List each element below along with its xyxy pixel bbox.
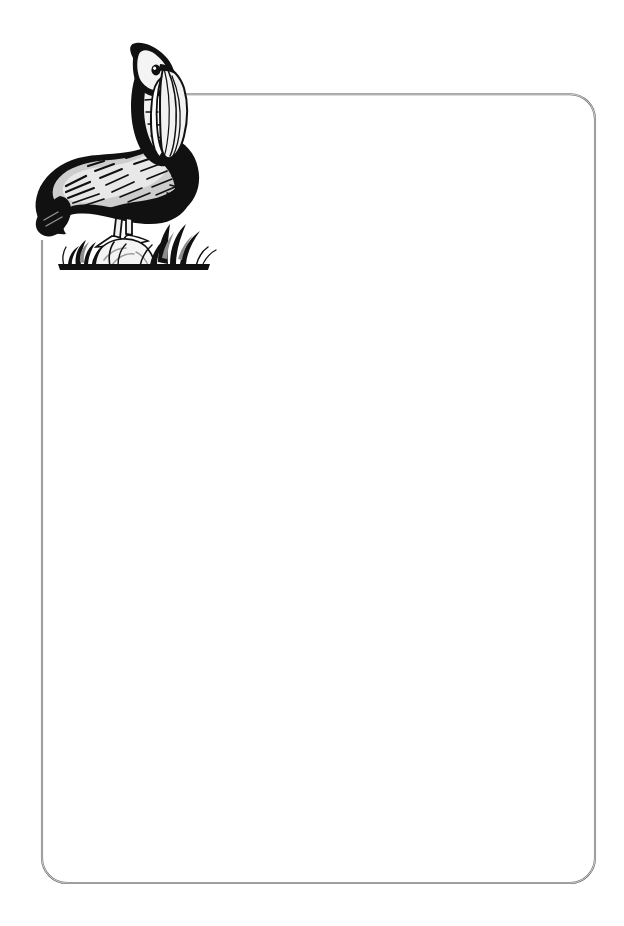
leg-right bbox=[126, 218, 132, 235]
pelican-illustration bbox=[0, 0, 624, 926]
leg-left bbox=[114, 218, 122, 238]
eye-highlight bbox=[153, 66, 156, 70]
pelican-figure bbox=[36, 43, 200, 256]
stationery-page bbox=[0, 0, 624, 926]
ground-scene bbox=[58, 224, 216, 270]
ground-line bbox=[58, 264, 210, 270]
reeds bbox=[150, 224, 200, 265]
